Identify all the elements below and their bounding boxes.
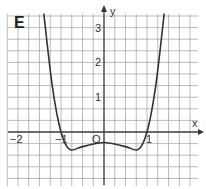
graph [0,0,206,189]
origin-label: O [92,134,101,145]
y-axis-arrow-icon [101,5,107,12]
y-tick-label: 1 [95,92,101,103]
x-tick-label: 1 [146,134,152,145]
y-tick-label: 3 [95,23,101,34]
x-tick-label: −2 [10,134,23,145]
x-axis-arrow-icon [198,129,204,135]
y-tick-label: 2 [95,57,101,68]
x-tick-label: −1 [55,134,68,145]
y-axis-label: y [110,6,116,17]
grid-lines [7,14,198,186]
figure-label: E [14,14,25,32]
x-axis-label: x [192,118,198,129]
